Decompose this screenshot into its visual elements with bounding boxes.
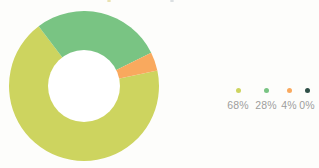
legend-label-3[interactable]: 0% (298, 97, 316, 113)
legend-label-row: 68% 28% 4% 0% (224, 97, 316, 113)
legend-swatch-0[interactable] (224, 84, 252, 96)
legend-swatch-row (224, 84, 316, 96)
donut-chart (6, 8, 162, 164)
legend-label-2[interactable]: 4% (280, 97, 298, 113)
top-edge-remnant-left (107, 0, 111, 2)
legend-swatch-3[interactable] (298, 84, 316, 96)
donut-center-hole (48, 50, 120, 122)
legend-swatch-1[interactable] (252, 84, 280, 96)
donut-chart-widget: 68% 28% 4% 0% (0, 0, 319, 168)
legend-swatch-2[interactable] (280, 84, 298, 96)
legend-dot-icon (305, 88, 310, 93)
chart-legend: 68% 28% 4% 0% (224, 84, 316, 118)
legend-dot-icon (287, 88, 292, 93)
legend-label-0[interactable]: 68% (224, 97, 252, 113)
top-edge-remnant-right (170, 0, 174, 2)
legend-dot-icon (264, 88, 269, 93)
legend-label-1[interactable]: 28% (252, 97, 280, 113)
legend-dot-icon (236, 88, 241, 93)
donut-chart-svg (6, 8, 162, 164)
